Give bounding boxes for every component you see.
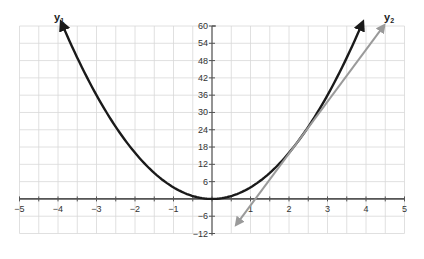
x-tick-label: −1 — [168, 204, 178, 214]
y-tick-label: −12 — [193, 229, 208, 239]
y2-label: y2 — [384, 11, 394, 24]
y-tick-label: 12 — [198, 159, 208, 169]
y-tick-label: 48 — [198, 56, 208, 66]
y-tick-label: 54 — [198, 38, 208, 48]
y-tick-label: 30 — [198, 107, 208, 117]
series-curves — [62, 24, 383, 224]
y-tick-label: −6 — [198, 211, 208, 221]
x-tick-label: 5 — [402, 204, 407, 214]
y-tick-label: 42 — [198, 73, 208, 83]
y-tick-label: 60 — [198, 21, 208, 31]
chart: −5−4−3−2−1123456054484236302418126−6−12 … — [0, 0, 424, 259]
x-tick-label: −2 — [130, 204, 140, 214]
x-tick-label: −3 — [91, 204, 101, 214]
series-labels: y1y2 — [54, 11, 394, 24]
y-tick-label: 6 — [203, 177, 208, 187]
x-tick-label: 4 — [363, 204, 368, 214]
y2-line — [237, 26, 383, 223]
y-tick-label: 24 — [198, 125, 208, 135]
x-tick-label: −5 — [14, 204, 24, 214]
x-tick-label: 3 — [325, 204, 330, 214]
y-tick-label: 18 — [198, 142, 208, 152]
y1-label: y1 — [54, 11, 64, 24]
y-tick-label: 36 — [198, 90, 208, 100]
x-tick-label: −4 — [53, 204, 63, 214]
x-tick-label: 2 — [286, 204, 291, 214]
